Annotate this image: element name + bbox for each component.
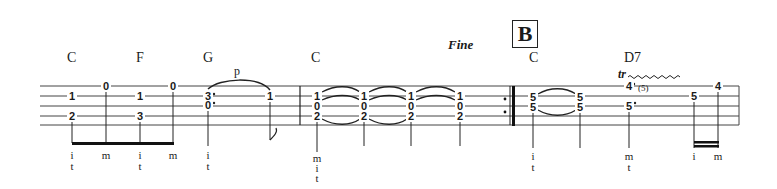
eighth-beam <box>72 142 174 145</box>
fingering-letter: t <box>65 161 79 171</box>
fingering-letter: i <box>687 151 701 161</box>
sixteenth-beam-1 <box>694 141 719 144</box>
fret-number: 2 <box>67 111 77 122</box>
fret-number: 1 <box>135 91 145 102</box>
fingering-letter: t <box>622 162 636 172</box>
fret-number: 2 <box>312 111 322 122</box>
repeat-dot <box>504 98 507 101</box>
pull-off-slur <box>208 80 270 90</box>
fingering-letter: t <box>526 162 540 172</box>
fret-number: 2 <box>359 111 369 122</box>
chord-symbol: C <box>67 50 76 66</box>
fret-number: 0 <box>101 81 111 92</box>
fret-number: 1 <box>265 91 275 102</box>
repeat-dot <box>504 111 507 114</box>
chord-symbol: G <box>203 50 213 66</box>
fret-number: 5 <box>689 91 699 102</box>
repeat-thick-barline <box>512 86 515 126</box>
fret-number: 5 <box>624 101 634 112</box>
fine-marking: Fine <box>448 37 473 53</box>
pull-off-label: p <box>234 64 240 79</box>
trill-label: tr <box>618 67 626 82</box>
fingering-letter: t <box>201 161 215 171</box>
sixteenth-beam-2 <box>694 145 719 148</box>
fret-number: 5 <box>528 102 538 113</box>
fret-number: 0 <box>203 100 213 111</box>
trill-auxiliary-fret: (5) <box>638 83 649 93</box>
fret-number: 4 <box>713 81 723 92</box>
tab-staff-graphics <box>0 0 777 189</box>
chord-symbol: C <box>529 50 538 66</box>
fingering-letter: i <box>526 151 540 161</box>
fingering-letter: m <box>166 150 180 160</box>
rehearsal-mark: B <box>512 20 538 48</box>
fingering-letter: i <box>133 150 147 160</box>
fingering-letter: i <box>201 150 215 160</box>
fret-number: 0 <box>168 81 178 92</box>
eighth-flag <box>270 128 277 140</box>
fingering-letter: t <box>133 161 147 171</box>
chord-symbol: C <box>311 50 320 66</box>
fingering-letter: m <box>99 150 113 160</box>
fret-number: 3 <box>135 111 145 122</box>
fingering-letter: i <box>65 150 79 160</box>
fret-number: 2 <box>406 111 416 122</box>
chord-symbol: D7 <box>624 50 641 66</box>
fret-number: 2 <box>455 111 465 122</box>
fret-number: 1 <box>67 91 77 102</box>
trill-extension <box>628 76 680 79</box>
fret-number: 5 <box>575 102 585 113</box>
fingering-letter: m <box>711 151 725 161</box>
fingering-letter: m <box>622 151 636 161</box>
chord-symbol: F <box>136 50 144 66</box>
fingering-letter: t <box>310 173 324 183</box>
fret-number: 4 <box>624 81 634 92</box>
